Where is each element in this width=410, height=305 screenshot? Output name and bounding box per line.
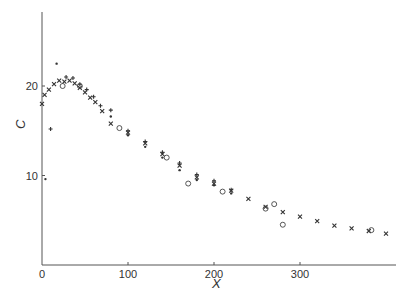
x-tick-label: 100 [119,268,137,280]
data-point-plus [92,95,96,99]
data-point-circles [186,181,191,186]
y-tick-label: 10 [26,170,38,182]
data-point-circles [164,155,169,160]
data-point-crosses [73,81,77,85]
data-point-plus [160,150,164,154]
data-point-crosses [43,93,47,97]
data-point-dots [144,146,146,148]
data-point-crosses [47,88,51,92]
data-point-crosses [281,210,285,214]
data-point-dots [178,169,180,171]
data-point-dots [161,156,163,158]
data-point-crosses [68,79,72,83]
data-point-crosses [57,79,61,83]
data-point-dots [44,178,46,180]
data-point-plus [85,88,89,92]
data-point-circles [117,126,122,131]
data-point-plus [64,75,68,79]
data-points [40,62,388,235]
axes [42,12,396,265]
data-point-crosses [246,197,250,201]
data-point-crosses [52,82,56,86]
y-axis-label: C [13,119,28,129]
data-point-plus [126,129,130,133]
data-point-dots [230,192,232,194]
data-point-crosses [109,122,113,126]
x-axis-label: X [211,276,222,291]
ticks: 01002003001020 [26,80,309,280]
data-point-dots [110,115,112,117]
x-tick-label: 300 [291,268,309,280]
data-point-dots [196,179,198,181]
data-point-circles [280,222,285,227]
data-point-plus [109,108,113,112]
data-point-crosses [315,219,319,223]
data-point-plus [143,139,147,143]
data-point-circles [60,84,65,89]
data-point-plus [98,104,102,108]
data-point-crosses [350,226,354,230]
data-point-crosses [93,100,97,104]
data-point-circles [272,202,277,207]
data-point-dots [127,134,129,136]
data-point-crosses [332,224,336,228]
data-point-crosses [88,96,92,100]
data-point-dots [55,62,57,64]
data-point-plus [49,127,53,131]
data-point-circles [220,189,225,194]
data-point-crosses [100,109,104,113]
data-point-dots [213,184,215,186]
data-point-crosses [384,232,388,236]
data-point-crosses [298,215,302,219]
data-point-crosses [62,80,66,84]
y-tick-label: 20 [26,80,38,92]
scatter-chart: 01002003001020 X C [0,0,410,305]
x-tick-label: 0 [39,268,45,280]
data-point-plus [229,188,233,192]
